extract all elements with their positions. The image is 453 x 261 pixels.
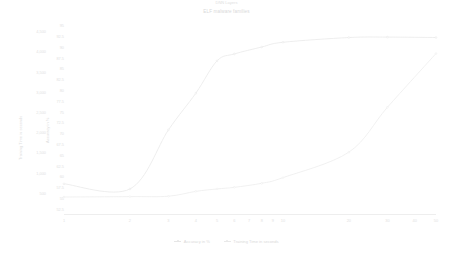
data-point[interactable] [387, 36, 389, 38]
data-point[interactable] [234, 53, 236, 55]
data-point[interactable] [63, 183, 65, 185]
series-line [64, 37, 436, 192]
x-axis-tick: 30 [380, 219, 394, 223]
data-point[interactable] [168, 195, 170, 197]
chart-container: ELF malware families 5001,0001,5002,0002… [0, 0, 453, 261]
secondary-y-axis-tick: 85 [47, 67, 64, 71]
secondary-y-axis-tick: 82.5 [47, 78, 64, 82]
x-axis-tick: 3 [161, 219, 175, 223]
legend-label: Accuracy in % [184, 239, 210, 244]
data-point[interactable] [195, 191, 197, 193]
y-axis-tick: 3,000 [18, 91, 46, 95]
series-1 [63, 36, 437, 192]
data-point[interactable] [234, 186, 236, 188]
y-axis-tick: 4,500 [18, 30, 46, 34]
data-point[interactable] [129, 188, 131, 190]
chart-title: ELF malware families [0, 9, 453, 14]
data-point[interactable] [387, 106, 389, 108]
x-axis-tick: 10 [276, 219, 290, 223]
data-point[interactable] [435, 53, 437, 55]
data-point[interactable] [261, 46, 263, 48]
secondary-y-axis-tick: 62.5 [47, 165, 64, 169]
data-point[interactable] [216, 188, 218, 190]
secondary-y-axis-tick: 87.5 [47, 57, 64, 61]
secondary-y-axis-tick: 55 [47, 197, 64, 201]
secondary-y-axis-tick: 77.5 [47, 100, 64, 104]
x-axis-tick: 5 [210, 219, 224, 223]
y-axis-tick: 500 [18, 192, 46, 196]
secondary-y-axis-tick: 90 [47, 46, 64, 50]
x-axis-tick: 20 [342, 219, 356, 223]
y-axis-title: Training Time in seconds [18, 116, 23, 160]
data-point[interactable] [348, 37, 350, 39]
data-point[interactable] [348, 151, 350, 153]
data-point[interactable] [435, 37, 437, 39]
x-axis-tick: 50 [429, 219, 443, 223]
x-axis-tick: 4 [189, 219, 203, 223]
secondary-y-axis-tick: 92.5 [47, 35, 64, 39]
legend-label: Training Time in seconds [233, 239, 278, 244]
x-axis-tick: 1 [57, 219, 71, 223]
y-axis-tick: 3,500 [18, 71, 46, 75]
data-point[interactable] [282, 177, 284, 179]
legend-marker-icon [224, 241, 231, 242]
data-point[interactable] [168, 129, 170, 131]
series-line [64, 54, 436, 197]
data-point[interactable] [129, 196, 131, 198]
secondary-y-axis-tick: 60 [47, 175, 64, 179]
secondary-y-axis-tick: 67.5 [47, 143, 64, 147]
x-axis-title: DNN Layers [0, 0, 453, 5]
secondary-y-axis-tick: 95 [47, 24, 64, 28]
x-axis-tick: 6 [227, 219, 241, 223]
data-point[interactable] [216, 60, 218, 62]
x-axis-line [64, 214, 436, 215]
secondary-y-axis-tick: 80 [47, 89, 64, 93]
x-axis-tick: 2 [123, 219, 137, 223]
y-axis-tick: 4,000 [18, 50, 46, 54]
legend-item[interactable]: Training Time in seconds [224, 239, 279, 244]
data-point[interactable] [261, 182, 263, 184]
data-point[interactable] [195, 92, 197, 94]
legend-item[interactable]: Accuracy in % [174, 239, 209, 244]
plot-svg [64, 22, 436, 214]
secondary-y-axis-tick: 57.5 [47, 186, 64, 190]
series-2 [63, 53, 437, 198]
data-point[interactable] [63, 196, 65, 198]
plot-area [64, 22, 436, 214]
secondary-y-axis-title: Accuracy in % [45, 118, 50, 143]
secondary-y-axis-tick: 52.5 [47, 208, 64, 212]
y-axis-tick: 1,000 [18, 172, 46, 176]
x-axis-tick: 40 [408, 219, 422, 223]
data-point[interactable] [282, 41, 284, 43]
chart-legend: Accuracy in %Training Time in seconds [0, 239, 453, 244]
legend-marker-icon [174, 241, 181, 242]
secondary-y-axis-tick: 65 [47, 154, 64, 158]
y-axis-tick: 2,500 [18, 111, 46, 115]
secondary-y-axis-tick: 75 [47, 111, 64, 115]
